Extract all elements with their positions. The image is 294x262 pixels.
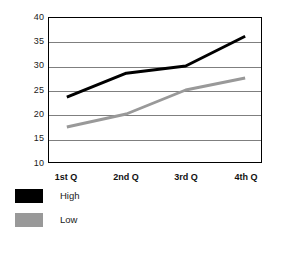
y-tick-label: 15 bbox=[18, 134, 44, 143]
y-tick-label: 35 bbox=[18, 37, 44, 46]
y-tick-label: 40 bbox=[18, 13, 44, 22]
x-tick-label: 1st Q bbox=[55, 172, 78, 182]
y-tick-label: 10 bbox=[18, 159, 44, 168]
x-tick-label: 4th Q bbox=[234, 172, 257, 182]
legend-swatch-high bbox=[15, 189, 43, 203]
chart-legend: HighLow bbox=[0, 186, 294, 234]
line-chart-figure: 10152025303540 1st Q2nd Q3rd Q4th Q High… bbox=[0, 0, 294, 262]
x-tick-label: 3rd Q bbox=[174, 172, 198, 182]
legend-item[interactable]: High bbox=[0, 186, 294, 210]
x-tick-label: 2nd Q bbox=[113, 172, 139, 182]
legend-label: High bbox=[60, 190, 80, 202]
legend-swatch-low bbox=[15, 213, 43, 227]
plot-region: 10152025303540 1st Q2nd Q3rd Q4th Q bbox=[0, 0, 294, 180]
series-layer bbox=[49, 18, 261, 162]
series-line-high bbox=[67, 36, 245, 97]
legend-label: Low bbox=[60, 214, 77, 226]
y-tick-label: 20 bbox=[18, 110, 44, 119]
y-tick-label: 25 bbox=[18, 86, 44, 95]
y-tick-label: 30 bbox=[18, 61, 44, 70]
y-axis-tick-labels: 10152025303540 bbox=[14, 0, 44, 180]
plot-area bbox=[48, 17, 262, 163]
legend-item[interactable]: Low bbox=[0, 210, 294, 234]
